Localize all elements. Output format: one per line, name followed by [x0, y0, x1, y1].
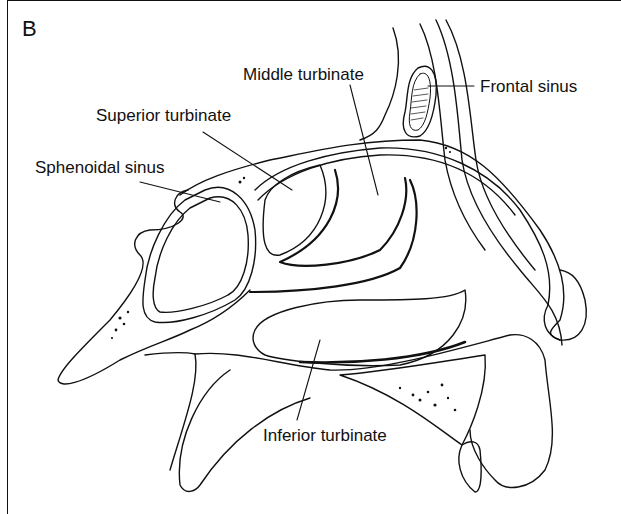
label-frontal-sinus: Frontal sinus: [480, 78, 577, 95]
frontal-bone-lines: [360, 20, 562, 345]
turbinates: [250, 165, 466, 366]
leader-middle-turbinate: [350, 85, 378, 195]
label-sphenoidal-sinus: Sphenoidal sinus: [35, 159, 164, 176]
panel-letter: B: [22, 16, 37, 42]
label-inferior-turbinate: Inferior turbinate: [263, 427, 387, 444]
leader-lines: [140, 85, 474, 420]
leader-inferior-turbinate: [297, 340, 320, 420]
nose-tip: [544, 270, 586, 340]
leader-sphenoidal-sinus: [140, 182, 220, 202]
leader-superior-turbinate: [203, 132, 292, 190]
frontal-sinus-shape: [403, 66, 436, 137]
label-middle-turbinate: Middle turbinate: [243, 66, 364, 83]
hard-palate: [145, 335, 552, 492]
bone-texture: [111, 147, 456, 412]
label-superior-turbinate: Superior turbinate: [96, 107, 231, 124]
